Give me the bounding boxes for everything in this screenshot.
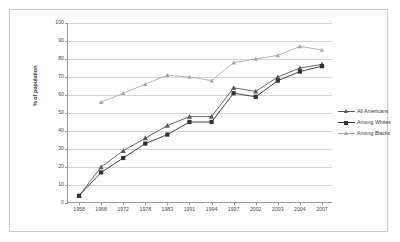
data-point bbox=[121, 156, 125, 160]
series-line bbox=[79, 64, 322, 195]
y-tick-label: 100 bbox=[55, 20, 64, 25]
y-tick-label: 10 bbox=[58, 182, 64, 187]
x-tick-label: 2002 bbox=[250, 207, 262, 212]
y-tick-label: 30 bbox=[58, 146, 64, 151]
x-tick-label: 2007 bbox=[316, 207, 328, 212]
legend-label: Among Blacks bbox=[357, 131, 390, 136]
legend-item[interactable]: Among Blacks bbox=[338, 128, 391, 139]
x-tick-label: 1994 bbox=[206, 207, 218, 212]
y-tick-label: 60 bbox=[58, 92, 64, 97]
x-tick-label: 2003 bbox=[272, 207, 284, 212]
y-tick-label: 40 bbox=[58, 128, 64, 133]
x-tick-label: 1997 bbox=[228, 207, 240, 212]
data-point bbox=[165, 133, 169, 137]
chart-frame: % of population 0102030405060708090100 1… bbox=[9, 9, 388, 232]
data-point bbox=[143, 142, 147, 146]
data-point bbox=[232, 91, 236, 95]
x-tick-label: 1972 bbox=[117, 207, 129, 212]
data-point bbox=[320, 64, 324, 68]
chart-legend: All AmericansAmong WhitesAmong Blacks bbox=[338, 106, 391, 139]
x-tick-label: 2004 bbox=[294, 207, 306, 212]
legend-item[interactable]: Among Whites bbox=[338, 117, 391, 128]
y-axis-title: % of population bbox=[32, 66, 38, 106]
y-tick-mark bbox=[65, 203, 68, 204]
legend-marker bbox=[344, 121, 348, 125]
data-point bbox=[298, 70, 302, 74]
data-point bbox=[121, 148, 126, 153]
legend-swatch bbox=[338, 108, 355, 115]
plot-area: 0102030405060708090100 19581968197219781… bbox=[67, 23, 332, 203]
legend-swatch bbox=[338, 119, 355, 126]
legend-item[interactable]: All Americans bbox=[338, 106, 391, 117]
data-point bbox=[209, 120, 213, 124]
legend-marker bbox=[344, 131, 348, 135]
x-tick-label: 1968 bbox=[95, 207, 107, 212]
y-tick-label: 0 bbox=[61, 200, 64, 205]
data-point bbox=[77, 194, 81, 198]
legend-marker bbox=[344, 109, 348, 113]
x-tick-label: 1991 bbox=[184, 207, 196, 212]
y-tick-label: 20 bbox=[58, 164, 64, 169]
y-tick-label: 80 bbox=[58, 56, 64, 61]
legend-label: All Americans bbox=[357, 109, 388, 114]
data-point bbox=[231, 85, 236, 90]
x-tick-label: 1983 bbox=[162, 207, 174, 212]
series-line bbox=[79, 66, 322, 196]
legend-label: Among Whites bbox=[357, 120, 391, 125]
data-point bbox=[254, 95, 258, 99]
data-point bbox=[165, 123, 170, 128]
series-line bbox=[101, 46, 322, 102]
data-point bbox=[298, 44, 302, 48]
data-point bbox=[276, 79, 280, 83]
y-tick-label: 70 bbox=[58, 74, 64, 79]
x-tick-label: 1978 bbox=[140, 207, 152, 212]
x-tick-label: 1958 bbox=[73, 207, 85, 212]
data-point bbox=[275, 74, 280, 79]
series-lines bbox=[68, 23, 333, 203]
data-point bbox=[143, 136, 148, 141]
data-point bbox=[99, 170, 103, 174]
legend-swatch bbox=[338, 130, 355, 137]
y-tick-label: 90 bbox=[58, 38, 64, 43]
data-point bbox=[187, 120, 191, 124]
y-tick-label: 50 bbox=[58, 110, 64, 115]
